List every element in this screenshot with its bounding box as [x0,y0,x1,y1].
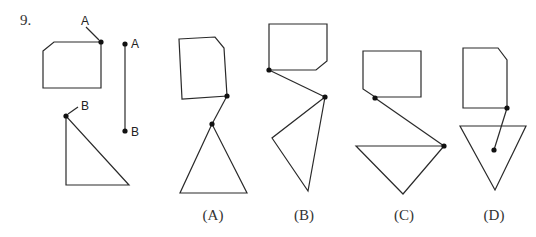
segment-point-b [122,128,127,133]
given-triangle: B [63,99,129,185]
option-d-pentagon [463,48,507,108]
option-a-triangle [180,124,247,193]
pentagon-label-a: A [81,14,89,28]
option-a-figure[interactable]: (A) [179,37,247,224]
segment-point-a [122,41,127,46]
option-a-dot-bottom [209,121,214,126]
option-b-dot-top [266,67,271,72]
option-a-pentagon [179,37,227,99]
given-pentagon: A [43,14,104,88]
option-d-label: (D) [484,207,505,224]
point-a-dot [98,39,103,44]
option-b-dot-bottom [322,94,327,99]
option-a-label: (A) [203,207,224,224]
option-c-dot-top [372,95,377,100]
point-b-dot [63,113,68,118]
option-a-dot-top [224,93,229,98]
triangle-shape [66,116,129,185]
option-d-triangle [460,126,526,190]
pentagon-shape [43,42,101,88]
option-c-label: (C) [394,207,414,224]
option-b-connector [269,70,325,97]
option-c-dot-bottom [441,143,446,148]
segment-label-a: A [131,37,139,51]
option-c-connector [375,98,444,146]
option-c-pentagon [363,51,421,97]
given-segment-ab: A B [122,37,139,139]
option-c-triangle [356,146,444,194]
option-b-label: (B) [294,207,314,224]
option-d-dot-bottom [491,147,496,152]
triangle-label-b: B [81,99,89,113]
segment-label-b: B [131,125,139,139]
option-b-figure[interactable]: (B) [266,24,327,224]
option-b-pentagon [269,24,327,70]
option-a-connector [212,96,227,124]
option-d-connector [494,108,507,150]
option-c-figure[interactable]: (C) [356,51,447,224]
option-b-triangle [272,97,325,191]
figure-canvas: 9. A B A B (A) (B) [0,0,536,237]
option-d-dot-top [504,105,509,110]
option-d-figure[interactable]: (D) [460,48,526,224]
leader-line-b [68,107,78,114]
leader-line-a [86,27,99,40]
question-number: 9. [20,12,31,28]
